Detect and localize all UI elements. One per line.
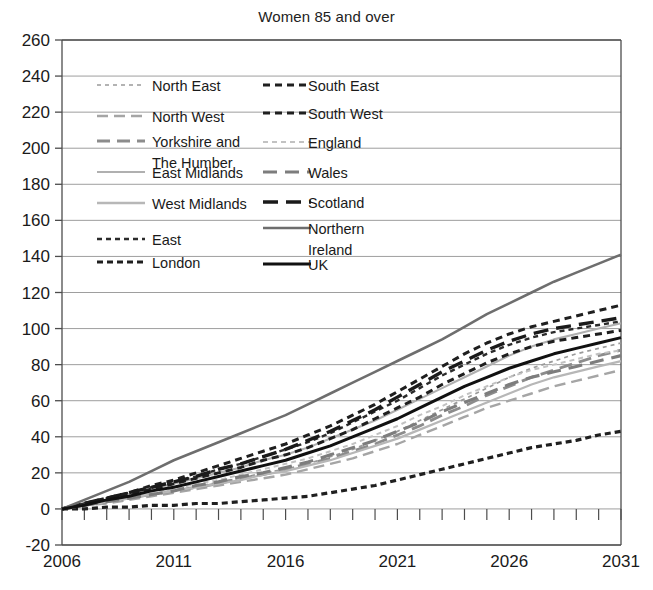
legend-label: UK xyxy=(308,257,328,273)
y-tick-label: 100 xyxy=(22,320,50,339)
y-tick-label: 40 xyxy=(31,428,50,447)
line-chart-plot: 260240220200180160140120100806040200-20 … xyxy=(0,0,653,590)
x-tick-label: 2011 xyxy=(156,552,193,571)
y-tick-label: 80 xyxy=(31,356,50,375)
series-line xyxy=(62,350,621,509)
legend-label: North East xyxy=(152,78,221,94)
series-line xyxy=(62,321,621,509)
y-tick-label: 60 xyxy=(31,392,50,411)
series-line xyxy=(62,338,621,509)
y-tick-label: 200 xyxy=(22,139,50,158)
legend-label: London xyxy=(152,255,200,271)
legend-label: East Midlands xyxy=(152,165,243,181)
y-tick-label: 180 xyxy=(22,175,50,194)
y-tick-label: 220 xyxy=(22,103,50,122)
legend-label: Ireland xyxy=(308,242,352,258)
x-tick-label: 2026 xyxy=(490,552,528,571)
x-tick-label: 2006 xyxy=(43,552,81,571)
y-tick-label: 0 xyxy=(41,500,50,519)
series-line xyxy=(62,350,621,509)
series-line xyxy=(62,323,621,509)
y-tick-label: 140 xyxy=(22,247,50,266)
y-tick-label: 20 xyxy=(31,464,50,483)
legend-label: Scotland xyxy=(308,195,364,211)
legend-label: East xyxy=(152,232,181,248)
x-tick-label: 2021 xyxy=(378,552,416,571)
y-tick-label: 120 xyxy=(22,284,50,303)
chart-legend: North EastNorth WestYorkshire andThe Hum… xyxy=(97,78,383,273)
series-line xyxy=(62,431,621,509)
y-tick-label: 240 xyxy=(22,67,50,86)
legend-label: England xyxy=(308,135,361,151)
legend-label: Yorkshire and xyxy=(152,134,240,150)
y-tick-label: 260 xyxy=(22,31,50,50)
legend-label: Northern xyxy=(308,221,364,237)
chart-container: Women 85 and over 2602402202001801601401… xyxy=(0,0,653,590)
legend-label: South West xyxy=(308,106,383,122)
legend-label: West Midlands xyxy=(152,196,247,212)
legend-label: North West xyxy=(152,109,224,125)
legend-label: South East xyxy=(308,78,379,94)
x-tick-label: 2031 xyxy=(602,552,640,571)
x-axis-tick-labels: 200620112016202120262031 xyxy=(43,552,640,571)
y-tick-label: 160 xyxy=(22,211,50,230)
y-axis-tick-labels: 260240220200180160140120100806040200-20 xyxy=(22,31,50,555)
legend-label: Wales xyxy=(308,165,348,181)
x-tick-label: 2016 xyxy=(267,552,305,571)
